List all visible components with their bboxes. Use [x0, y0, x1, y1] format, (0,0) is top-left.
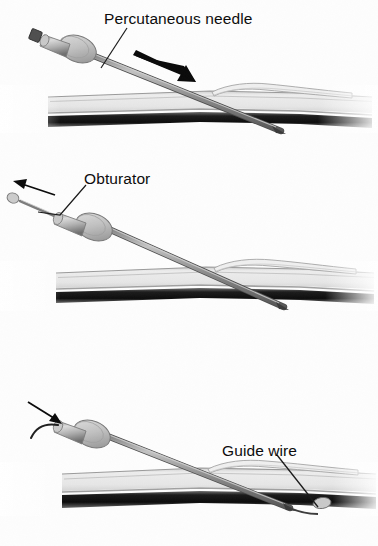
tissue-edge-fade: [0, 261, 378, 311]
obturator-withdrawal-arrow: [13, 179, 55, 195]
label-percutaneous-needle: Percutaneous needle: [104, 10, 252, 28]
tissue-edge-fade: [0, 462, 378, 516]
panel-guide-wire: [0, 390, 378, 546]
needle-hub: [52, 415, 115, 453]
obturator-knob: [6, 191, 21, 205]
tissue-edge-fade: [0, 85, 378, 133]
needle-hub: [28, 28, 100, 68]
guide-wire-feed-arrow: [28, 402, 62, 424]
label-obturator: Obturator: [84, 170, 150, 188]
medical-illustration-figure: Percutaneous needle: [0, 0, 378, 546]
panel-obturator: [0, 165, 378, 345]
label-guide-wire: Guide wire: [222, 442, 297, 460]
